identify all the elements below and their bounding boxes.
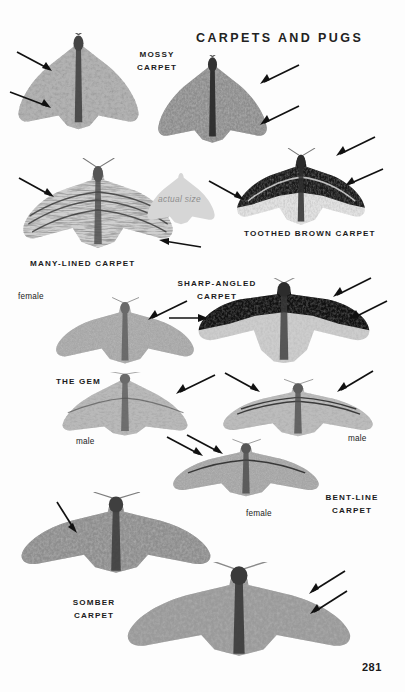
species-label-somber-carpet: SOMBER CARPET bbox=[58, 597, 130, 622]
pointer-arrow bbox=[9, 90, 57, 110]
pointer-arrow bbox=[224, 372, 266, 394]
sex-label-female: female bbox=[246, 509, 272, 518]
moth-plate-toothed-brown-carpet bbox=[236, 148, 366, 230]
pointer-arrow bbox=[168, 374, 216, 396]
species-label-bent-line-carpet: BENT-LINE CARPET bbox=[306, 492, 398, 517]
pointer-arrow bbox=[208, 180, 250, 202]
pointer-arrow bbox=[252, 64, 300, 86]
moth-plate-mossy-carpet-1 bbox=[16, 33, 141, 136]
pointer-arrow bbox=[338, 168, 384, 188]
pointer-arrow bbox=[16, 51, 58, 73]
pointer-arrow bbox=[168, 313, 214, 323]
sex-label-male: male bbox=[76, 437, 95, 446]
page-title: CARPETS AND PUGS bbox=[196, 31, 363, 45]
pointer-arrow bbox=[330, 370, 374, 394]
species-label-the-gem: THE GEM bbox=[56, 376, 136, 389]
pointer-arrow bbox=[18, 177, 60, 199]
pointer-arrow bbox=[300, 590, 348, 616]
pointer-arrow bbox=[186, 434, 230, 456]
pointer-arrow bbox=[152, 237, 202, 251]
pointer-arrow bbox=[328, 136, 376, 158]
field-guide-page: CARPETS AND PUGS MOSSY CARPET bbox=[0, 0, 405, 692]
species-label-toothed-brown-carpet: TOOTHED BROWN CARPET bbox=[244, 228, 404, 241]
actual-size-label: actual size bbox=[158, 194, 201, 204]
sex-label-female: female bbox=[18, 292, 44, 301]
species-label-mossy-carpet: MOSSY CARPET bbox=[126, 49, 188, 74]
pointer-arrow bbox=[56, 501, 82, 535]
pointer-arrow bbox=[252, 105, 300, 127]
page-number: 281 bbox=[362, 661, 382, 673]
sex-label-male: male bbox=[348, 434, 367, 443]
species-label-many-lined-carpet: MANY-LINED CARPET bbox=[30, 258, 190, 271]
species-label-sharp-angled-carpet: SHARP-ANGLED CARPET bbox=[160, 278, 274, 303]
pointer-arrow bbox=[342, 300, 388, 322]
pointer-arrow bbox=[326, 277, 372, 299]
